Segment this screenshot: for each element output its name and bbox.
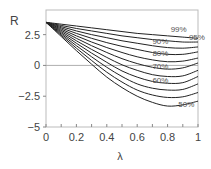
curve-label-95pct: 95% [189, 33, 205, 42]
x-tick-label: 0.8 [160, 131, 175, 143]
x-axis-label: λ [117, 150, 123, 162]
x-tick-label: 1 [195, 131, 201, 143]
curve-label-99pct: 99% [171, 25, 187, 34]
y-tick-label: −5 [27, 121, 40, 133]
curve-55pct [46, 22, 198, 97]
curve-label-80pct: 80% [152, 49, 168, 58]
y-tick-label: −2.5 [18, 90, 40, 102]
x-tick-label: 0.6 [130, 131, 145, 143]
y-tick-label: 0 [34, 59, 40, 71]
curve-label-50pct: 50% [178, 100, 194, 109]
x-tick-label: 0 [43, 131, 49, 143]
y-axis: 2.50−2.5−5 [18, 29, 46, 133]
curve-label-60pct: 60% [152, 76, 168, 85]
y-axis-label: R [10, 14, 19, 28]
y-tick-label: 2.5 [25, 29, 40, 41]
curve-label-90pct: 90% [152, 37, 168, 46]
curves [46, 22, 198, 106]
chart: 99%95%90%80%70%60%50% 00.20.40.60.81 2.5… [0, 0, 211, 169]
curve-label-70pct: 70% [152, 62, 168, 71]
x-tick-label: 0.2 [69, 131, 84, 143]
x-tick-label: 0.4 [99, 131, 114, 143]
